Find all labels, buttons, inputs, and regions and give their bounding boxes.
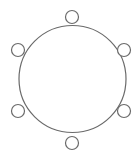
seat-lower-left-circle — [12, 105, 25, 118]
seat-bottom-circle — [66, 137, 79, 150]
round-table-diagram — [0, 0, 139, 159]
seat-top-circle — [66, 11, 79, 24]
seat-upper-left-circle — [12, 44, 25, 57]
seat-lower-right-circle — [118, 105, 131, 118]
diagram-canvas — [0, 0, 139, 159]
table-circle — [19, 26, 126, 133]
seat-upper-right-circle — [118, 44, 131, 57]
